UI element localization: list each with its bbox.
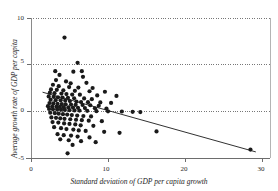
data-point <box>61 112 65 116</box>
data-point <box>58 116 62 120</box>
data-point <box>57 112 61 116</box>
data-point <box>51 107 55 111</box>
regression-line <box>43 92 256 152</box>
data-point <box>73 89 77 93</box>
data-point <box>57 73 61 77</box>
data-point <box>81 75 85 79</box>
data-point <box>67 122 71 126</box>
data-point <box>102 130 106 134</box>
data-point <box>59 98 63 102</box>
data-point <box>52 125 56 129</box>
data-point <box>67 85 71 89</box>
data-point <box>120 109 124 113</box>
data-point <box>87 89 91 93</box>
data-point <box>114 94 118 98</box>
data-point <box>63 108 67 112</box>
data-point <box>49 115 53 119</box>
data-point <box>57 84 61 88</box>
data-point <box>62 117 66 121</box>
data-point <box>77 128 81 132</box>
data-point <box>77 108 81 112</box>
data-point <box>109 101 113 105</box>
data-point <box>47 107 51 111</box>
data-point <box>53 111 57 115</box>
data-point <box>79 139 83 143</box>
data-point <box>55 132 59 136</box>
data-point <box>69 134 73 138</box>
ytick-label-10: 10 <box>8 15 24 22</box>
data-point <box>138 110 142 114</box>
data-points <box>46 36 253 156</box>
data-point <box>73 122 77 126</box>
data-point <box>95 93 99 97</box>
axis-lines <box>26 18 270 158</box>
data-point <box>81 114 85 118</box>
trendline <box>43 92 256 152</box>
data-point <box>59 108 63 112</box>
data-point <box>78 93 82 97</box>
data-point <box>87 119 91 123</box>
data-point <box>94 109 98 113</box>
data-point <box>62 133 66 137</box>
data-point <box>67 138 71 142</box>
data-point <box>75 61 79 65</box>
data-point <box>64 92 68 96</box>
data-point <box>70 143 74 147</box>
data-point <box>72 108 76 112</box>
data-point <box>70 113 74 117</box>
data-point <box>131 110 135 114</box>
data-point <box>71 127 75 131</box>
data-point <box>76 85 80 89</box>
data-point <box>89 114 93 118</box>
data-point <box>87 135 91 139</box>
data-point <box>100 119 104 123</box>
data-point <box>154 129 158 133</box>
data-point <box>67 108 71 112</box>
data-point <box>48 111 52 115</box>
data-point <box>84 129 88 133</box>
data-point <box>70 92 74 96</box>
data-point <box>56 120 60 124</box>
data-point <box>59 92 63 96</box>
data-point <box>62 36 66 40</box>
data-point <box>84 81 88 85</box>
data-point <box>79 123 83 127</box>
data-point <box>58 137 62 141</box>
data-point <box>54 116 58 120</box>
data-point <box>52 91 56 95</box>
data-point <box>103 90 107 94</box>
gridlines <box>31 18 270 158</box>
xtick-label-10: 10 <box>99 166 113 173</box>
data-point <box>91 86 95 90</box>
data-point <box>50 120 54 124</box>
data-point <box>51 83 55 87</box>
data-point <box>65 113 69 117</box>
data-point <box>68 117 72 121</box>
data-point <box>75 134 79 138</box>
data-point <box>117 131 121 135</box>
data-point <box>80 118 84 122</box>
data-point <box>62 121 66 125</box>
data-point <box>53 69 57 73</box>
data-point <box>55 107 59 111</box>
data-point <box>54 78 58 82</box>
data-point <box>82 96 86 100</box>
xtick-label-20: 20 <box>177 166 191 173</box>
data-point <box>59 126 63 130</box>
y-axis-title: Average growth rate of GDP per capita <box>11 39 19 158</box>
data-point <box>64 79 68 83</box>
data-point <box>80 69 84 73</box>
data-point <box>69 81 73 85</box>
data-point <box>71 70 75 74</box>
data-point <box>94 140 98 144</box>
data-point <box>65 151 69 155</box>
data-point <box>64 127 68 131</box>
data-point <box>75 113 79 117</box>
xtick-label-30: 30 <box>254 166 268 173</box>
xtick-label-0: 0 <box>24 166 38 173</box>
x-axis-title: Standard deviation of GDP per capita gro… <box>0 178 278 186</box>
data-point <box>74 118 78 122</box>
data-point <box>90 97 94 101</box>
scatter-plot-figure: 10 5 0 -5 0 10 20 30 Standard deviation … <box>0 0 278 191</box>
data-point <box>85 109 89 113</box>
